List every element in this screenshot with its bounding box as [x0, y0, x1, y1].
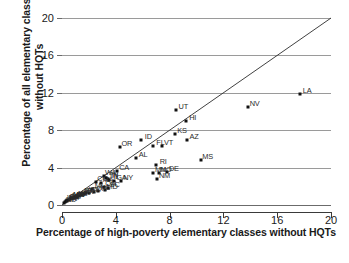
point-label-az: AZ: [190, 132, 199, 141]
data-point: [160, 145, 163, 148]
y-tick-label-16: 16: [42, 49, 54, 61]
data-point: [299, 92, 302, 95]
y-tick-label-8: 8: [48, 124, 54, 136]
y-tick-label-0: 0: [48, 199, 54, 211]
point-label-nd: ND: [66, 195, 76, 204]
y-tick-label-20: 20: [42, 12, 54, 24]
point-label-ks: KS: [177, 125, 186, 134]
point-label-ca: CA: [119, 163, 129, 172]
point-label-vt: VT: [164, 138, 173, 147]
x-tick-label-8: 8: [167, 214, 173, 226]
scatter-plot-figure: Percentage of all elementary classes wit…: [0, 0, 349, 263]
point-label-nv: NV: [250, 98, 260, 107]
x-tick-label-20: 20: [325, 214, 337, 226]
data-point: [246, 105, 249, 108]
point-label-ut: UT: [179, 101, 188, 110]
point-label-nm: NM: [159, 170, 170, 179]
x-tick-label-0: 0: [59, 214, 65, 226]
point-label-ms: MS: [202, 152, 213, 161]
x-axis-baseline: [62, 205, 331, 206]
data-point: [175, 108, 178, 111]
data-point: [152, 145, 155, 148]
data-point: [140, 138, 143, 141]
data-point: [186, 139, 189, 142]
y-tick-label-4: 4: [48, 162, 54, 174]
x-tick-label-12: 12: [217, 214, 229, 226]
x-axis-line: [62, 212, 331, 213]
x-axis-title: Percentage of high-poverty elementary cl…: [36, 226, 336, 239]
x-tick-label-16: 16: [271, 214, 283, 226]
data-point: [134, 157, 137, 160]
data-point: [184, 119, 187, 122]
point-label-id: ID: [145, 131, 152, 140]
data-point: [173, 132, 176, 135]
point-label-hi: HI: [189, 112, 196, 121]
plot-area: 048121620 048121620 LANVUTHIKSAZIDORFLVT…: [62, 18, 331, 205]
point-label-al: AL: [139, 150, 148, 159]
y-tick-label-12: 12: [42, 87, 54, 99]
point-label-or: OR: [121, 139, 132, 148]
x-tick-label-4: 4: [113, 214, 119, 226]
point-label-la: LA: [303, 85, 312, 94]
